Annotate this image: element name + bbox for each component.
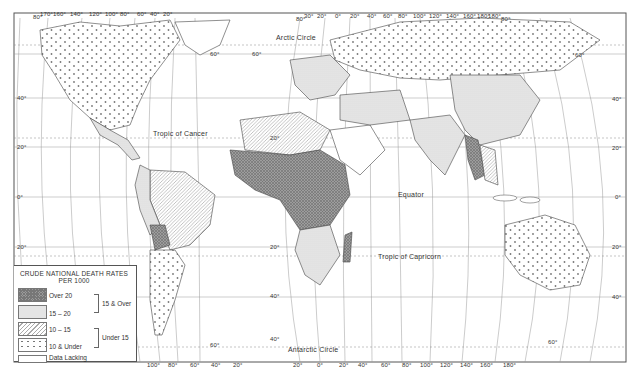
lat-label: 60° xyxy=(548,339,558,345)
lat-label: 40° xyxy=(612,294,622,300)
legend-label-data-lacking: Data Lacking xyxy=(49,354,87,361)
arctic-circle-label: Arctic Circle xyxy=(276,34,316,41)
region-north-america xyxy=(40,20,180,130)
lon-label: 180° xyxy=(488,13,501,19)
legend-title-line1: CRUDE NATIONAL DEATH RATES xyxy=(18,270,130,277)
lon-label: 100° xyxy=(147,362,160,368)
region-middle-east xyxy=(340,90,410,125)
lat-label: 20° xyxy=(17,244,27,250)
lon-label: 30° xyxy=(304,13,314,19)
lon-label: 0° xyxy=(317,362,323,368)
lon-label: 160° xyxy=(463,13,476,19)
legend-bracket-under-15 xyxy=(94,328,99,348)
legend-group-15-over: 15 & Over xyxy=(102,300,131,307)
legend: CRUDE NATIONAL DEATH RATES PER 1000 Over… xyxy=(14,265,137,362)
lat-label: 20° xyxy=(612,244,622,250)
equator-label: Equator xyxy=(398,191,424,198)
island-indonesia xyxy=(493,195,540,203)
lon-label: 140° xyxy=(460,362,473,368)
legend-swatch-15-20 xyxy=(18,305,47,319)
lon-label: 120° xyxy=(440,362,453,368)
region-madagascar xyxy=(343,232,352,262)
lat-label: 20° xyxy=(270,135,280,141)
lon-label: 20° xyxy=(163,11,173,17)
lat-label: 40° xyxy=(270,293,280,299)
lat-label: 40° xyxy=(612,96,622,102)
lon-label: 60° xyxy=(190,362,200,368)
lon-label: 80° xyxy=(120,11,130,17)
legend-bracket-15-over xyxy=(94,294,99,313)
region-southern-cone xyxy=(150,250,185,335)
lon-label: 40° xyxy=(358,362,368,368)
legend-title-line2: PER 1000 xyxy=(18,277,130,284)
tropic-of-cancer-label: Tropic of Cancer xyxy=(153,130,208,137)
lat-label: 20° xyxy=(17,144,27,150)
lon-label: 160° xyxy=(53,11,66,17)
lat-label: 0° xyxy=(17,194,23,200)
lon-label: 180° xyxy=(503,362,516,368)
lon-label: 80° xyxy=(501,16,511,22)
region-west-central-africa xyxy=(230,150,350,230)
lon-label: 40° xyxy=(211,362,221,368)
lon-label: 20° xyxy=(350,13,360,19)
lat-label: 40° xyxy=(17,95,27,101)
lon-label: 140° xyxy=(70,11,83,17)
legend-label-10-under: 10 & Under xyxy=(49,343,82,350)
legend-swatch-over-20 xyxy=(18,288,47,302)
legend-label-15-20: 15 – 20 xyxy=(49,310,71,317)
lon-label: 60° xyxy=(137,11,147,17)
region-india xyxy=(410,115,465,175)
legend-swatch-10-under xyxy=(18,338,47,352)
region-ussr xyxy=(330,18,600,80)
antarctic-circle-label: Antarctic Circle xyxy=(288,346,338,353)
lon-label: 0° xyxy=(335,13,341,19)
lon-label: 120° xyxy=(429,13,442,19)
lon-label: 80° xyxy=(168,362,178,368)
lon-label: 20° xyxy=(339,362,349,368)
legend-swatch-data-lacking xyxy=(18,355,47,363)
legend-label-10-15: 10 – 15 xyxy=(49,326,71,333)
legend-label-over-20: Over 20 xyxy=(49,292,72,299)
region-southern-africa xyxy=(295,225,340,285)
legend-group-under-15: Under 15 xyxy=(102,334,129,341)
lon-label: 20° xyxy=(317,13,327,19)
lat-label: 20° xyxy=(612,145,622,151)
lon-label: 140° xyxy=(446,13,459,19)
tropic-of-capricorn-label: Tropic of Capricorn xyxy=(378,253,441,260)
lon-label: 60° xyxy=(383,13,393,19)
legend-swatch-10-15 xyxy=(18,322,47,336)
lon-label: 40° xyxy=(367,13,377,19)
region-australia xyxy=(505,215,590,290)
lon-label: 120° xyxy=(89,11,102,17)
lat-label: 60° xyxy=(575,52,585,58)
lat-label: 60° xyxy=(252,51,262,57)
lat-label: 60° xyxy=(210,51,220,57)
lon-label: 60° xyxy=(381,362,391,368)
lon-label: 40° xyxy=(150,11,160,17)
lon-label: 80° xyxy=(402,362,412,368)
lon-label: 100° xyxy=(420,362,433,368)
lon-label: 80° xyxy=(398,13,408,19)
lon-label: 100° xyxy=(105,11,118,17)
lon-label: 160° xyxy=(480,362,493,368)
region-thailand xyxy=(480,145,498,185)
lon-label: 170° xyxy=(40,11,53,17)
lat-label: 20° xyxy=(270,244,280,250)
lat-label: 40° xyxy=(270,336,280,342)
lat-label: 60° xyxy=(210,342,220,348)
lon-label: 20° xyxy=(233,362,243,368)
legend-title: CRUDE NATIONAL DEATH RATES PER 1000 xyxy=(18,270,130,284)
region-greenland xyxy=(175,20,230,55)
lon-label: 20° xyxy=(293,362,303,368)
lat-label: 0° xyxy=(615,194,621,200)
lon-label: 100° xyxy=(413,13,426,19)
